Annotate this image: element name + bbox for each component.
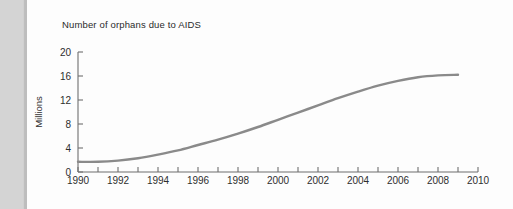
x-tick-label-2004: 2004 bbox=[347, 175, 370, 186]
chart-plot-svg: 048121620 199019921994199619982000200220… bbox=[25, 0, 513, 209]
x-tick-label-2006: 2006 bbox=[387, 175, 410, 186]
y-tick-label-8: 8 bbox=[65, 119, 71, 130]
x-tick-label-1998: 1998 bbox=[227, 175, 250, 186]
x-tick-label-2000: 2000 bbox=[267, 175, 290, 186]
data-series-line bbox=[78, 75, 458, 162]
x-axis-ticks: 1990199219941996199820002002200420062008… bbox=[67, 167, 490, 186]
x-tick-label-1996: 1996 bbox=[187, 175, 210, 186]
x-tick-label-1994: 1994 bbox=[147, 175, 170, 186]
x-tick-label-2008: 2008 bbox=[427, 175, 450, 186]
y-axis-ticks: 048121620 bbox=[60, 47, 83, 178]
document-page: Number of orphans due to AIDS 048121620 … bbox=[25, 0, 513, 209]
y-tick-label-20: 20 bbox=[60, 47, 72, 58]
y-tick-label-12: 12 bbox=[60, 95, 72, 106]
y-tick-label-16: 16 bbox=[60, 71, 72, 82]
x-tick-label-1992: 1992 bbox=[107, 175, 130, 186]
x-tick-label-2010: 2010 bbox=[467, 175, 490, 186]
screenshot-root: Number of orphans due to AIDS 048121620 … bbox=[0, 0, 513, 209]
chart-axes bbox=[78, 52, 478, 172]
y-tick-label-4: 4 bbox=[65, 143, 71, 154]
x-tick-label-1990: 1990 bbox=[67, 175, 90, 186]
x-tick-label-2002: 2002 bbox=[307, 175, 330, 186]
y-axis-title: Millions bbox=[33, 96, 44, 128]
chart-figure: Number of orphans due to AIDS 048121620 … bbox=[25, 0, 513, 209]
